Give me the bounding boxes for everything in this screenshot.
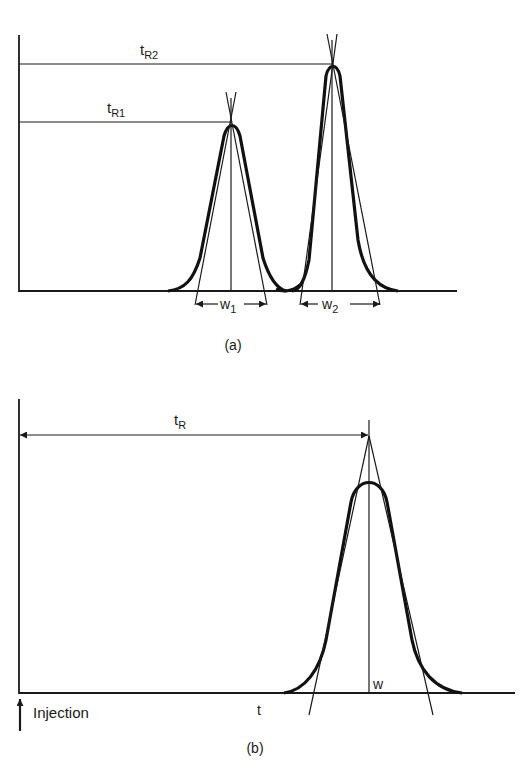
- peak-b-tangent-right: [369, 436, 433, 715]
- w1-label: w1: [219, 296, 236, 315]
- peak-2-curve: [292, 66, 398, 291]
- tR2-label: tR2: [140, 41, 158, 61]
- peak-b-tangent-left: [309, 436, 369, 715]
- panel-a-caption: (a): [224, 337, 241, 353]
- chromatogram-figure: tR2 tR1 w1 w2 (a) tR w t Inject: [0, 0, 522, 770]
- panel-b: tR w t Injection (b): [19, 399, 515, 756]
- panel-b-caption: (b): [246, 740, 263, 756]
- peak-1-tangent-left: [195, 92, 236, 305]
- peak-2-tangent-right: [327, 34, 380, 305]
- w-label: w: [372, 676, 384, 692]
- w2-label: w2: [321, 296, 338, 315]
- tR-label: tR: [174, 411, 186, 431]
- injection-label: Injection: [33, 704, 89, 721]
- panel-a: tR2 tR1 w1 w2 (a): [19, 34, 457, 353]
- peak-1-curve: [168, 126, 286, 292]
- peak-1-tangent-right: [226, 92, 267, 305]
- time-axis-label: t: [257, 702, 261, 718]
- tR1-label: tR1: [107, 99, 125, 119]
- peak-b-curve: [284, 483, 462, 694]
